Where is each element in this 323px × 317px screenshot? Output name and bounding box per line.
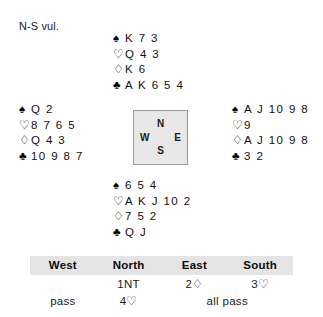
hand-south-hearts: A K J 10 2 bbox=[125, 194, 191, 210]
auction-bid-west-2: pass bbox=[30, 292, 96, 309]
compass-box: N E S W bbox=[133, 110, 188, 165]
auction-header-south: South bbox=[227, 256, 293, 275]
hand-north-hearts: Q 4 3 bbox=[125, 47, 160, 63]
spade-icon: ♠ bbox=[232, 102, 244, 118]
hand-east-clubs-row: ♣ 3 2 bbox=[232, 149, 309, 165]
compass-south-label: S bbox=[157, 146, 164, 156]
club-icon: ♣ bbox=[113, 78, 125, 94]
auction-row: pass 4♡ all pass bbox=[30, 292, 293, 309]
hand-east-hearts-row: ♡ 9 bbox=[232, 118, 309, 134]
hand-west-hearts: 8 7 6 5 bbox=[31, 118, 76, 134]
auction-bid-east-1: 2♢ bbox=[162, 275, 228, 292]
hand-east-hearts: 9 bbox=[244, 118, 252, 134]
hand-north-spades-row: ♠ K 7 3 bbox=[113, 31, 184, 47]
club-icon: ♣ bbox=[113, 225, 125, 241]
spade-icon: ♠ bbox=[113, 31, 125, 47]
auction-header-west: West bbox=[30, 256, 96, 275]
heart-icon: ♡ bbox=[232, 118, 244, 134]
hand-east: ♠ A J 10 9 8 ♡ 9 ♢ A J 10 9 8 ♣ 3 2 bbox=[232, 102, 309, 164]
hand-west-diamonds-row: ♢ Q 4 3 bbox=[19, 133, 84, 149]
hand-north-diamonds-row: ♢ K 6 bbox=[113, 62, 184, 78]
diamond-icon: ♢ bbox=[113, 209, 125, 225]
hand-north-hearts-row: ♡ Q 4 3 bbox=[113, 47, 184, 63]
hand-north-clubs: A K 6 5 4 bbox=[125, 78, 184, 94]
auction-header-row: West North East South bbox=[30, 256, 293, 275]
hand-east-spades-row: ♠ A J 10 9 8 bbox=[232, 102, 309, 118]
hand-east-spades: A J 10 9 8 bbox=[244, 102, 309, 118]
hand-south-spades-row: ♠ 6 5 4 bbox=[113, 178, 191, 194]
diamond-icon: ♢ bbox=[232, 133, 244, 149]
hand-west: ♠ Q 2 ♡ 8 7 6 5 ♢ Q 4 3 ♣ 10 9 8 7 bbox=[19, 102, 84, 164]
auction-bid-north-2: 4♡ bbox=[96, 292, 162, 309]
club-icon: ♣ bbox=[232, 149, 244, 165]
hand-west-spades: Q 2 bbox=[31, 102, 54, 118]
hand-south-clubs: Q J bbox=[125, 225, 147, 241]
spade-icon: ♠ bbox=[113, 178, 125, 194]
auction-bid-north-1: 1NT bbox=[96, 275, 162, 292]
hand-north-diamonds: K 6 bbox=[125, 62, 146, 78]
compass-north-label: N bbox=[157, 119, 164, 129]
hand-south-spades: 6 5 4 bbox=[125, 178, 158, 194]
heart-icon: ♡ bbox=[19, 118, 31, 134]
hand-west-hearts-row: ♡ 8 7 6 5 bbox=[19, 118, 84, 134]
hand-south-hearts-row: ♡ A K J 10 2 bbox=[113, 194, 191, 210]
heart-icon: ♡ bbox=[113, 47, 125, 63]
spade-icon: ♠ bbox=[19, 102, 31, 118]
hand-east-clubs: 3 2 bbox=[244, 149, 264, 165]
hand-south: ♠ 6 5 4 ♡ A K J 10 2 ♢ 7 5 2 ♣ Q J bbox=[113, 178, 191, 240]
compass-east-label: E bbox=[174, 133, 181, 143]
auction-bid-west-1 bbox=[30, 275, 96, 292]
vulnerability-label: N-S vul. bbox=[19, 20, 59, 32]
hand-north-clubs-row: ♣ A K 6 5 4 bbox=[113, 78, 184, 94]
hand-west-clubs-row: ♣ 10 9 8 7 bbox=[19, 149, 84, 165]
auction-all-pass: all pass bbox=[162, 292, 294, 309]
heart-icon: ♡ bbox=[113, 194, 125, 210]
hand-west-diamonds: Q 4 3 bbox=[31, 133, 66, 149]
auction-header-east: East bbox=[162, 256, 228, 275]
auction-bid-south-1: 3♡ bbox=[227, 275, 293, 292]
hand-north: ♠ K 7 3 ♡ Q 4 3 ♢ K 6 ♣ A K 6 5 4 bbox=[113, 31, 184, 93]
auction-header-north: North bbox=[96, 256, 162, 275]
diamond-icon: ♢ bbox=[113, 62, 125, 78]
auction-table: West North East South 1NT 2♢ 3♡ pass 4♡ … bbox=[30, 256, 293, 309]
hand-west-clubs: 10 9 8 7 bbox=[31, 149, 84, 165]
diamond-icon: ♢ bbox=[19, 133, 31, 149]
hand-east-diamonds: A J 10 9 8 bbox=[244, 133, 309, 149]
hand-south-diamonds: 7 5 2 bbox=[125, 209, 158, 225]
hand-east-diamonds-row: ♢ A J 10 9 8 bbox=[232, 133, 309, 149]
hand-west-spades-row: ♠ Q 2 bbox=[19, 102, 84, 118]
hand-north-spades: K 7 3 bbox=[125, 31, 159, 47]
club-icon: ♣ bbox=[19, 149, 31, 165]
compass-west-label: W bbox=[140, 133, 149, 143]
auction-row: 1NT 2♢ 3♡ bbox=[30, 275, 293, 292]
hand-south-diamonds-row: ♢ 7 5 2 bbox=[113, 209, 191, 225]
hand-south-clubs-row: ♣ Q J bbox=[113, 225, 191, 241]
